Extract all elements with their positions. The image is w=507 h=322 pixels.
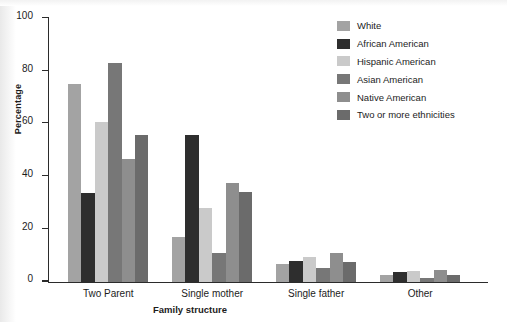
y-axis-tick: 80	[42, 70, 49, 71]
bar	[447, 275, 460, 282]
y-axis-tick-label: 0	[27, 273, 33, 284]
legend-swatch-icon	[337, 56, 350, 66]
bar	[122, 159, 135, 282]
bar	[303, 257, 316, 282]
y-axis-tick-label: 40	[22, 168, 33, 179]
bar	[420, 278, 433, 282]
legend-item-label: African American	[357, 38, 429, 49]
y-axis-title: Percentage	[13, 69, 23, 149]
legend-item: Asian American	[337, 70, 505, 88]
bar	[172, 237, 185, 282]
bar	[81, 193, 94, 281]
legend-item-label: White	[357, 20, 381, 31]
y-axis-tick: 40	[42, 175, 49, 176]
legend: WhiteAfrican AmericanHispanic AmericanAs…	[337, 17, 505, 124]
legend-item-label: Native American	[357, 92, 426, 103]
bar	[199, 208, 212, 282]
bar	[185, 135, 198, 281]
bar-group	[172, 18, 252, 282]
y-axis-tick: 0	[42, 280, 49, 281]
y-axis-tick-label: 100	[16, 10, 33, 21]
x-axis-category-label: Other	[356, 288, 484, 299]
legend-swatch-icon	[337, 74, 350, 84]
legend-swatch-icon	[337, 39, 350, 49]
y-axis-tick: 60	[42, 122, 49, 123]
y-axis-line	[48, 18, 49, 283]
bar	[226, 183, 239, 282]
legend-item-label: Two or more ethnicities	[357, 109, 455, 120]
bar	[108, 63, 121, 282]
legend-swatch-icon	[337, 21, 350, 31]
y-axis-tick: 20	[42, 228, 49, 229]
legend-swatch-icon	[337, 110, 350, 120]
grouped-bar-chart: Percentage 020406080100 Two ParentSingle…	[0, 0, 507, 322]
legend-item: Hispanic American	[337, 53, 505, 71]
legend-item-label: Hispanic American	[357, 56, 436, 67]
bar	[289, 261, 302, 282]
bar	[393, 272, 406, 281]
bar	[95, 122, 108, 281]
y-axis-tick-label: 20	[22, 221, 33, 232]
x-axis-title: Family structure	[40, 304, 340, 315]
bar	[276, 264, 289, 281]
legend-item: Two or more ethnicities	[337, 106, 505, 124]
bar	[434, 270, 447, 282]
bar	[212, 253, 225, 282]
bar	[330, 253, 343, 282]
bar	[380, 275, 393, 282]
bar	[343, 262, 356, 282]
bar-group	[68, 18, 148, 282]
y-axis-tick-label: 60	[22, 115, 33, 126]
bar	[316, 268, 329, 281]
bar	[135, 135, 148, 281]
legend-item: African American	[337, 35, 505, 53]
legend-item: Native American	[337, 88, 505, 106]
bar	[239, 192, 252, 282]
x-axis-line	[48, 282, 488, 283]
y-axis-tick: 100	[42, 17, 49, 18]
legend-swatch-icon	[337, 92, 350, 102]
legend-item-label: Asian American	[357, 74, 423, 85]
legend-item: White	[337, 17, 505, 35]
y-axis-tick-label: 80	[22, 63, 33, 74]
bar	[407, 271, 420, 282]
bar	[68, 84, 81, 282]
